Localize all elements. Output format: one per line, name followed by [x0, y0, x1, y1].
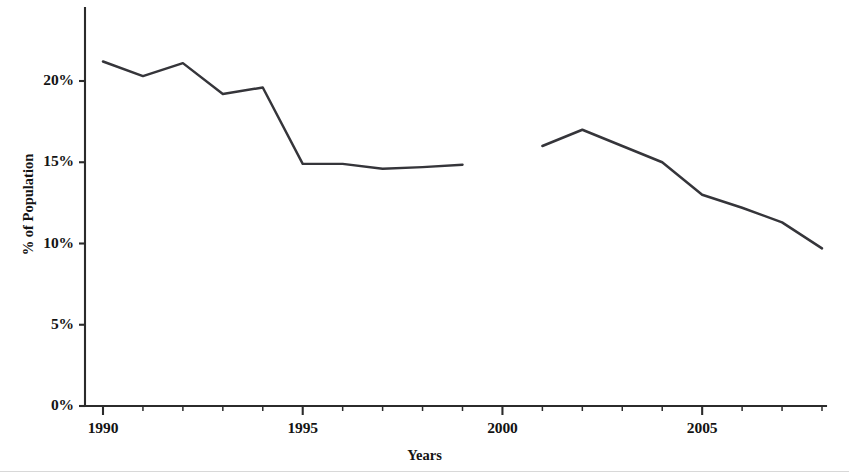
y-tick-label: 10%	[0, 234, 74, 252]
y-axis-title: % of Population	[20, 125, 37, 285]
y-tick-label: 20%	[0, 71, 74, 89]
x-axis-title: Years	[0, 447, 849, 464]
y-tick-label: 0%	[0, 396, 74, 414]
data-series-group	[103, 62, 822, 249]
y-tick-label: 15%	[0, 152, 74, 170]
y-tick-label: 5%	[0, 315, 74, 333]
data-line-segment-1	[103, 62, 463, 169]
chart-plot-area	[0, 0, 849, 475]
x-tick-label: 2000	[462, 419, 542, 437]
x-tick-label: 2005	[662, 419, 742, 437]
data-line-segment-2	[542, 130, 822, 249]
tick-marks-group	[79, 81, 822, 415]
chart-container: 0%5%10%15%20% 1990199520002005 % of Popu…	[0, 0, 849, 475]
bottom-divider	[0, 471, 849, 472]
x-tick-label: 1990	[63, 419, 143, 437]
axes-group	[85, 8, 826, 406]
x-tick-label: 1995	[263, 419, 343, 437]
